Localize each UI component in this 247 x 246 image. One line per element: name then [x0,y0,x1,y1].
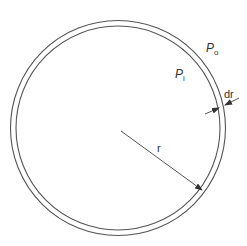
inner-pressure-subscript: i [183,74,185,83]
dr-arrow-inner [205,108,219,114]
radius-label: r [157,142,161,154]
outer-wall-circle [11,21,226,236]
outer-pressure-label: Po [206,41,219,57]
radius-arrow [121,131,202,190]
wall-thickness-label: dr [224,88,234,100]
vessel-diagram: Po Pi dr r [0,0,247,246]
outer-pressure-subscript: o [214,48,219,57]
inner-wall-circle [16,26,220,230]
inner-pressure-label: Pi [175,67,185,83]
